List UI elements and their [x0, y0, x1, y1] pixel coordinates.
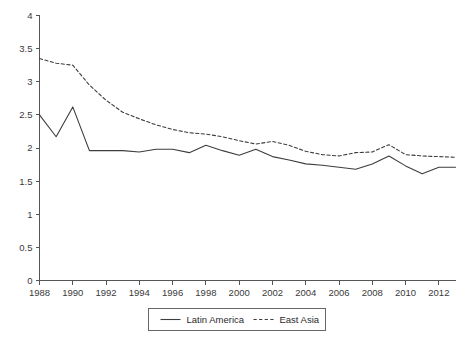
y-tick-label: 2 [27, 142, 32, 153]
x-tick-label: 1990 [62, 287, 83, 298]
y-tick-label: 0 [27, 275, 32, 286]
x-tick-label: 2002 [262, 287, 283, 298]
y-tick-label: 1 [27, 209, 32, 220]
y-tick-label: 4 [27, 10, 32, 21]
y-tick-label: 3.5 [19, 43, 32, 54]
x-tick-label: 1996 [162, 287, 183, 298]
x-tick-label: 1998 [195, 287, 216, 298]
x-tick-label: 1988 [29, 287, 50, 298]
x-tick-label: 1992 [95, 287, 116, 298]
x-tick-label: 2008 [362, 287, 383, 298]
chart-canvas: 00.511.522.533.54 1988199019921994199619… [0, 0, 471, 345]
y-tick-label: 3 [27, 76, 32, 87]
y-tick-label: 1.5 [19, 176, 32, 187]
line-chart-figure: 00.511.522.533.54 1988199019921994199619… [0, 0, 471, 345]
x-tick-label: 2000 [229, 287, 250, 298]
legend-label-east-asia: East Asia [280, 314, 320, 325]
x-tick-label: 2012 [428, 287, 449, 298]
x-tick-label: 1994 [129, 287, 150, 298]
y-tick-label: 2.5 [19, 109, 32, 120]
legend-label-latin-america: Latin America [187, 314, 245, 325]
x-tick-label: 2004 [295, 287, 316, 298]
x-tick-label: 2006 [328, 287, 349, 298]
x-tick-label: 2010 [395, 287, 416, 298]
y-tick-label: 0.5 [19, 242, 32, 253]
